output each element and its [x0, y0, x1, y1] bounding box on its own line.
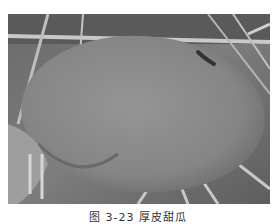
figure-caption: 图 3-23 厚皮甜瓜 — [0, 211, 276, 224]
melon-photo-illustration — [8, 14, 270, 204]
figure-photo — [8, 14, 270, 204]
